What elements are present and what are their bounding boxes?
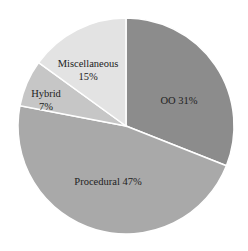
pie-chart: OO 31% Procedural 47% Hybrid 7% Miscella…	[0, 0, 248, 251]
label-hybrid: Hybrid	[31, 88, 61, 99]
label-misc-pct: 15%	[78, 71, 98, 82]
label-procedural: Procedural 47%	[74, 176, 142, 187]
label-hybrid-pct: 7%	[39, 101, 53, 112]
label-oo: OO 31%	[160, 95, 197, 106]
label-misc: Miscellaneous	[58, 58, 119, 69]
pie-slices	[18, 18, 234, 234]
